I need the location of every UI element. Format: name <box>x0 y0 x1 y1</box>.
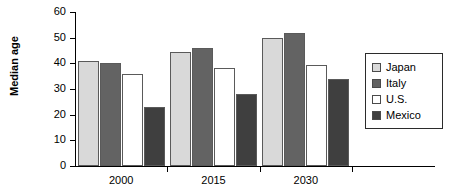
bar-mexico-2000 <box>144 107 165 166</box>
y-tick-label: 0 <box>60 159 66 171</box>
x-tick-mark <box>167 167 168 172</box>
legend-item-japan[interactable]: Japan <box>372 59 436 75</box>
legend-swatch-icon <box>372 63 381 72</box>
bar-italy-2015 <box>192 48 213 166</box>
bar-chart: Median age 0102030405060 200020152030 Ja… <box>0 0 450 196</box>
legend-item-label: Italy <box>386 78 406 89</box>
y-tick-label: 50 <box>54 31 66 43</box>
legend-item-label: Japan <box>386 62 416 73</box>
plot-area <box>75 12 352 166</box>
bar-italy-2030 <box>284 33 305 166</box>
bar-mexico-2030 <box>328 79 349 166</box>
x-tick-mark <box>352 167 353 172</box>
bar-us-2015 <box>214 68 235 166</box>
legend-item-us[interactable]: U.S. <box>372 91 436 107</box>
x-tick-label: 2015 <box>201 174 225 186</box>
y-tick-label: 40 <box>54 56 66 68</box>
bar-us-2030 <box>306 65 327 166</box>
legend: JapanItalyU.S.Mexico <box>365 53 443 129</box>
bar-us-2000 <box>122 74 143 166</box>
legend-swatch-icon <box>372 79 381 88</box>
bar-japan-2030 <box>262 38 283 166</box>
y-axis-title: Median age <box>8 26 20 106</box>
y-tick-label: 30 <box>54 82 66 94</box>
y-tick-mark <box>70 166 75 167</box>
legend-swatch-icon <box>372 111 381 120</box>
y-tick-label: 10 <box>54 133 66 145</box>
bar-japan-2015 <box>170 52 191 166</box>
y-tick-label: 60 <box>54 5 66 17</box>
y-tick-label: 20 <box>54 108 66 120</box>
legend-item-label: Mexico <box>386 110 421 121</box>
bar-japan-2000 <box>78 61 99 166</box>
bar-mexico-2015 <box>236 94 257 166</box>
x-tick-mark <box>260 167 261 172</box>
legend-item-mexico[interactable]: Mexico <box>372 107 436 123</box>
bar-italy-2000 <box>100 63 121 166</box>
x-tick-label: 2030 <box>294 174 318 186</box>
x-tick-label: 2000 <box>109 174 133 186</box>
legend-swatch-icon <box>372 95 381 104</box>
legend-item-italy[interactable]: Italy <box>372 75 436 91</box>
x-axis-line <box>75 166 435 167</box>
legend-item-label: U.S. <box>386 94 407 105</box>
